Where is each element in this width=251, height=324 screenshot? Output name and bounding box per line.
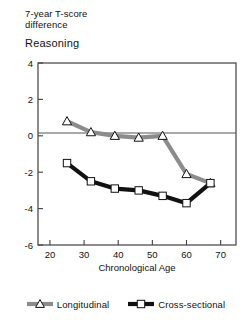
chart-legend: LongitudinalCross-sectional [0, 298, 251, 310]
data-point-marker [159, 192, 166, 199]
y-tick-label: -4 [25, 203, 33, 214]
data-point-marker [183, 199, 190, 206]
plot-frame [38, 63, 236, 245]
figure: 7-year T-score difference Reasoning 420-… [0, 0, 251, 324]
data-point-marker [207, 179, 214, 186]
y-tick-label: 4 [28, 58, 33, 69]
x-tick-label: 70 [215, 249, 226, 260]
data-point-marker [135, 187, 142, 194]
y-tick-label: 2 [28, 94, 33, 105]
x-axis-tick-labels: 203040506070 [45, 249, 226, 260]
x-tick-label: 30 [79, 249, 90, 260]
x-axis-label: Chronological Age [98, 262, 175, 273]
legend-item-label: Cross-sectional [158, 299, 225, 310]
x-tick-label: 50 [147, 249, 158, 260]
legend-marker-triangle-icon [26, 298, 54, 310]
y-tick-label: -2 [25, 167, 33, 178]
data-point-marker [111, 185, 118, 192]
data-point-marker [87, 178, 94, 185]
legend-square-icon [138, 300, 145, 307]
y-tick-label: 0 [28, 130, 33, 141]
x-tick-label: 60 [181, 249, 192, 260]
x-tick-label: 20 [45, 249, 56, 260]
y-tick-label: -6 [25, 240, 33, 251]
x-tick-label: 40 [113, 249, 124, 260]
y-axis-tick-labels: 420-2-4-6 [25, 58, 33, 251]
legend-item-longitudinal[interactable]: Longitudinal [26, 298, 109, 310]
legend-item-label: Longitudinal [57, 299, 109, 310]
data-point-marker [63, 159, 70, 166]
chart-plot: 420-2-4-6 203040506070 Chronological Age [0, 0, 251, 295]
legend-marker-square-icon [127, 298, 155, 310]
legend-item-cross-sectional[interactable]: Cross-sectional [127, 298, 225, 310]
